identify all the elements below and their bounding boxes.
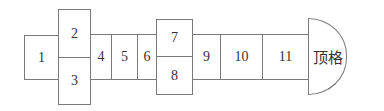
cell-4: 4 <box>90 34 112 80</box>
cell-9: 9 <box>192 34 221 80</box>
cell-7: 7 <box>156 19 193 57</box>
cell-6: 6 <box>137 34 157 80</box>
cell-8: 8 <box>156 56 193 95</box>
cell-top-cap: 顶格 <box>308 18 347 95</box>
cell-1: 1 <box>24 35 59 80</box>
cell-2: 2 <box>58 9 91 58</box>
cell-3: 3 <box>58 57 91 105</box>
cell-11: 11 <box>262 34 309 80</box>
cell-5: 5 <box>111 34 138 80</box>
cell-10: 10 <box>220 34 263 80</box>
